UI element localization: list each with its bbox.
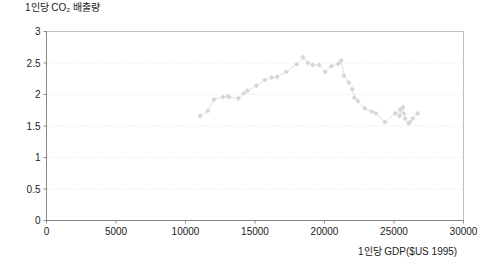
y-tick-label: 3	[35, 26, 41, 37]
x-tick-label: 30000	[450, 226, 478, 237]
x-tick-label: 10000	[172, 226, 200, 237]
x-tick-label: 20000	[311, 226, 339, 237]
y-tick-label: 1	[35, 152, 41, 163]
x-tick-label: 0	[44, 226, 50, 237]
x-tick-label: 25000	[380, 226, 408, 237]
y-tick-label: 2.5	[27, 58, 41, 69]
x-axis-title: 1인당 GDP($US 1995)	[358, 245, 457, 258]
chart-container: 1인당 CO₂ 배출량 00.511.522.53050001000015000…	[0, 0, 499, 263]
x-axis-title-text: 1인당 GDP($US 1995)	[358, 246, 457, 257]
x-tick-label: 15000	[241, 226, 269, 237]
y-tick-label: 1.5	[27, 121, 41, 132]
y-tick-label: 0	[35, 215, 41, 226]
y-tick-label: 0.5	[27, 184, 41, 195]
y-tick-label: 2	[35, 89, 41, 100]
chart-plot: 00.511.522.53050001000015000200002500030…	[0, 0, 499, 263]
x-tick-label: 5000	[105, 226, 128, 237]
